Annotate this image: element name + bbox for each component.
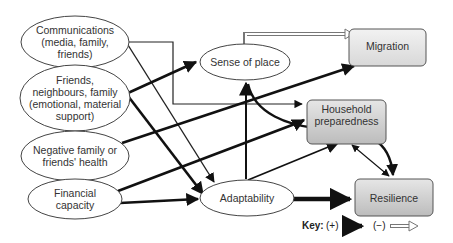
edge-financial-household [118,120,304,191]
edge-financial-adaptability [120,199,198,203]
node-adaptability[interactable] [200,180,294,216]
key-title: Key: [302,220,324,231]
node-migration[interactable] [349,29,426,66]
nodes [20,16,433,219]
edge-adaptability-household [248,143,338,180]
node-sense[interactable] [200,44,290,80]
node-financial[interactable] [28,179,122,219]
causal-diagram: Communications (media, family, friends) … [0,0,453,243]
key-positive-label: (+) [326,220,339,231]
node-friends[interactable] [20,65,130,131]
edge-friends-sense [128,62,196,93]
node-communications[interactable] [21,16,129,68]
edge-sense-migration-negative [245,34,345,44]
key-negative-arrowhead [409,221,418,231]
edge-friends-adaptability [128,96,203,194]
node-negative[interactable] [21,131,129,181]
node-household[interactable] [307,100,386,144]
diagram-svg [0,0,453,243]
node-resilience[interactable] [355,179,433,216]
key-negative-label: (−) [373,220,386,231]
